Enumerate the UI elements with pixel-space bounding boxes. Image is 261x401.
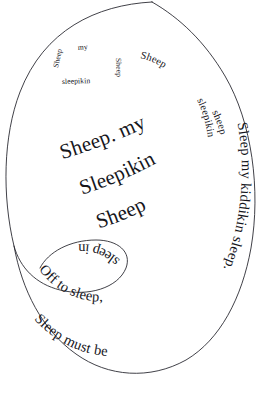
spiral-text-segment: sleep in [77, 241, 122, 270]
artwork-canvas: Sheep. my Sleepikin Sheep Sleep my kiddi… [0, 0, 261, 401]
spiral-text-segment: Off to sleep, [37, 261, 104, 304]
seg-3-3: Sheep [114, 58, 124, 77]
spiral-text-segment: Sleep my kiddikin sleep. [220, 121, 254, 274]
seg-3-0: Sheep [51, 48, 64, 69]
seg-1-2: Off to sleep, [37, 261, 104, 304]
spiral-artwork-svg: Sheep. my Sleepikin Sheep Sleep my kiddi… [0, 0, 261, 401]
spiral-text-segment: Sheep [114, 58, 124, 77]
ring-small: Sheep sleepikin sheep [139, 49, 229, 138]
seg-3-1: my [78, 42, 89, 52]
seg-1-0: Sleep my kiddikin sleep. [220, 121, 254, 274]
spiral-text-segment: Sheep [93, 192, 150, 233]
spiral-text-segment: Sheep [51, 48, 64, 69]
seg-2-0: Sheep [139, 49, 168, 70]
spiral-text-segment: my [78, 42, 89, 52]
spiral-text-segment: sleepikin [62, 76, 91, 86]
seg-1-1: Sleep must be [32, 310, 109, 359]
seg-3-2: sleepikin [62, 76, 91, 86]
ring-tiny: Sheep my sleepikin Sheep [51, 42, 124, 86]
spiral-text-segment: Sleep must be [32, 310, 109, 359]
spiral-text-segment: Sheep [139, 49, 168, 70]
seg-0-2: Sheep [93, 192, 150, 233]
seg-1-3: sleep in [77, 241, 122, 270]
ring-large: Sheep. my Sleepikin Sheep [57, 110, 160, 234]
